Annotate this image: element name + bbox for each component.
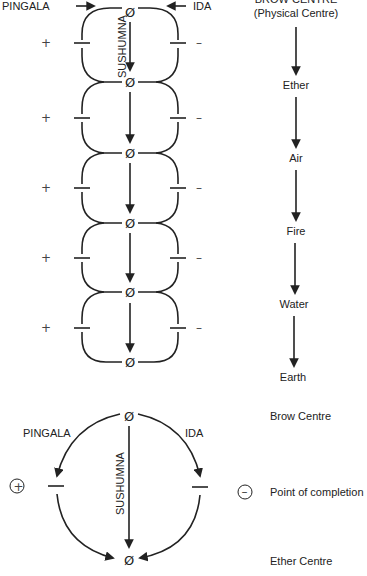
node-3: Ø <box>125 146 135 161</box>
sushumna-label-top: SUSHUMNA <box>116 14 128 78</box>
sushumna-label-bottom: SUSHUMNA <box>114 451 126 515</box>
nadi-diagram: PINGALA IDA SUSHUMNA Ø Ø Ø Ø Ø Ø + + + +… <box>0 0 367 576</box>
top-chain-diagram <box>74 6 186 362</box>
plus-sign-3: + <box>41 181 51 195</box>
element-earth: Earth <box>280 371 306 383</box>
element-column: BROW CENTRE (Physical Centre) Ether Air … <box>254 0 338 383</box>
loop-5 <box>74 292 186 362</box>
loop-3 <box>74 153 186 223</box>
pingala-upper-arc <box>57 414 120 476</box>
node-2: Ø <box>125 75 135 90</box>
ida-upper-arc <box>138 414 200 476</box>
minus-sign-2: – <box>196 111 202 125</box>
pingala-label-bottom: PINGALA <box>23 427 71 439</box>
minus-sign-4: – <box>196 251 202 265</box>
plus-sign-1: + <box>41 36 51 50</box>
plus-sign-4: + <box>41 251 51 265</box>
loop-2 <box>74 82 186 153</box>
plus-sign-2: + <box>41 111 51 125</box>
brow-centre-label: Brow Centre <box>270 410 331 422</box>
ether-centre-label: Ether Centre <box>270 555 332 567</box>
minus-sign-3: – <box>196 181 202 195</box>
element-ether: Ether <box>283 79 310 91</box>
minus-sign-5: – <box>196 321 202 335</box>
minus-sign-1: – <box>196 36 202 50</box>
element-air: Air <box>289 152 303 164</box>
ida-lower-arc <box>140 495 200 558</box>
bottom-node-top: Ø <box>124 409 134 424</box>
ida-label-bottom: IDA <box>185 427 204 439</box>
brow-centre-header: BROW CENTRE <box>255 0 338 5</box>
physical-centre-subheader: (Physical Centre) <box>254 7 338 19</box>
plus-sign-5: + <box>41 321 51 335</box>
node-6: Ø <box>125 355 135 370</box>
point-of-completion-label: Point of completion <box>270 486 364 498</box>
loop-4 <box>74 223 186 292</box>
minus-symbol: – <box>242 485 248 499</box>
ida-label-top: IDA <box>193 0 212 12</box>
pingala-lower-arc <box>57 494 113 558</box>
node-4: Ø <box>125 216 135 231</box>
node-1: Ø <box>125 5 135 20</box>
pingala-label-top: PINGALA <box>2 0 50 12</box>
bottom-node-bottom: Ø <box>124 553 134 568</box>
element-fire: Fire <box>287 225 306 237</box>
polarity-signs: + + + + + – – – – – <box>41 36 202 335</box>
element-water: Water <box>280 298 309 310</box>
plus-symbol: + <box>14 480 24 494</box>
node-5: Ø <box>125 285 135 300</box>
